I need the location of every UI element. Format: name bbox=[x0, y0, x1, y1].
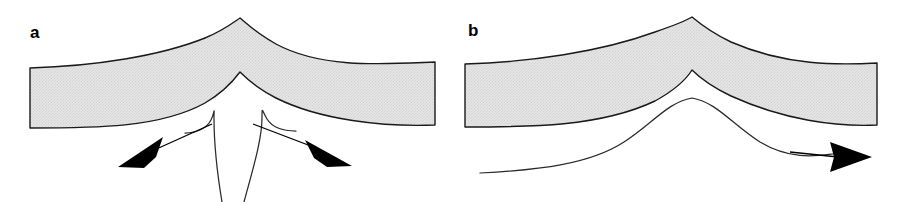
figure-canvas: a b bbox=[0, 0, 903, 202]
figure-root: a b bbox=[0, 0, 903, 202]
panel-b-label: b bbox=[468, 21, 478, 40]
panel-a-label: a bbox=[30, 23, 40, 42]
